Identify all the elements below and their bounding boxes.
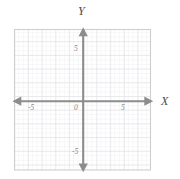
x-tick-label-positive-five: 5 [121,104,125,112]
y-tick-label-negative-five: -5 [72,148,78,156]
coordinate-plane-figure: Y X -5 5 0 5 -5 [0,0,180,179]
y-axis-title: Y [78,5,85,17]
origin-label: 0 [74,104,78,112]
x-axis-title: X [161,95,168,107]
y-tick-label-positive-five: 5 [74,45,78,53]
x-tick-label-negative-five: -5 [28,104,34,112]
coordinate-grid-canvas [0,0,180,179]
